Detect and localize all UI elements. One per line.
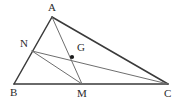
cevian-NC-line xyxy=(32,51,168,84)
side-AB-line xyxy=(14,17,52,84)
centroid-dot xyxy=(70,55,74,59)
geometry-figure: A B C N M G xyxy=(0,0,181,103)
geometry-canvas xyxy=(0,0,181,103)
point-label-M: M xyxy=(77,88,87,99)
marked-points xyxy=(70,55,74,59)
vertex-label-B: B xyxy=(10,87,17,98)
side-AC-line xyxy=(52,17,168,84)
cevians xyxy=(32,17,168,84)
point-label-N: N xyxy=(20,38,28,49)
triangle-outline xyxy=(14,17,168,84)
vertex-label-A: A xyxy=(48,2,56,13)
point-label-G: G xyxy=(77,42,85,53)
vertex-label-C: C xyxy=(164,88,171,99)
